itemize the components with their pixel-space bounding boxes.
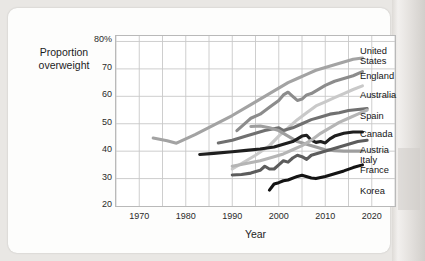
x-tick-label: 2000 xyxy=(259,211,299,221)
x-tick-label: 1990 xyxy=(212,211,252,221)
x-axis-label: Year xyxy=(115,228,396,240)
legend-label: Italy xyxy=(360,155,377,165)
legend-item-united: UnitedStates xyxy=(360,46,387,66)
legend-item-italy: Italy xyxy=(360,155,377,165)
gridlines xyxy=(116,36,395,206)
line-chart-svg xyxy=(116,36,395,206)
legend-item-canada: Canada xyxy=(360,129,393,139)
legend-item-korea: Korea xyxy=(360,186,385,196)
legend-label: England xyxy=(360,71,394,81)
legend-label: France xyxy=(360,165,389,175)
legend-label: Korea xyxy=(360,186,385,196)
x-tick-label: 2010 xyxy=(305,211,345,221)
x-tick-label: 2020 xyxy=(352,211,392,221)
chart-screenshot: Proportion overweight 80%706050403020 19… xyxy=(0,0,425,261)
legend-label-line2: States xyxy=(360,56,387,66)
legend-item-australia: Australia xyxy=(360,90,396,100)
legend-label: Austria xyxy=(360,145,389,155)
legend-item-spain: Spain xyxy=(360,111,384,121)
chart-card: Proportion overweight 80%706050403020 19… xyxy=(8,8,390,253)
x-tick-label: 1980 xyxy=(166,211,206,221)
page-edge-shadow xyxy=(392,0,425,261)
x-tick-label: 1970 xyxy=(119,211,159,221)
legend-label: Australia xyxy=(360,90,396,100)
legend-label: Canada xyxy=(360,129,393,139)
plot-area xyxy=(115,35,396,207)
legend-label: United xyxy=(360,46,387,56)
legend-item-england: England xyxy=(360,71,394,81)
legend-item-austria: Austria xyxy=(360,145,389,155)
legend-item-france: France xyxy=(360,165,389,175)
page-edge-band xyxy=(398,148,420,210)
legend-label: Spain xyxy=(360,111,384,121)
